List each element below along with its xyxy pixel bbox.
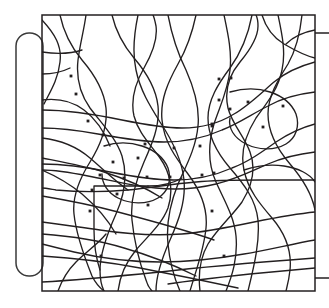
site-dot	[262, 126, 265, 129]
site-dot	[70, 75, 73, 78]
site-dot	[147, 204, 150, 207]
site-dot	[123, 177, 126, 180]
site-dot	[144, 143, 147, 146]
site-dot	[91, 189, 94, 192]
site-dot	[146, 176, 149, 179]
site-dot	[211, 123, 214, 126]
site-dot	[213, 172, 216, 175]
site-dot	[247, 101, 250, 104]
site-dot	[102, 134, 105, 137]
site-dot	[137, 157, 140, 160]
curve-arrangement-diagram	[0, 0, 329, 308]
site-dot	[173, 147, 176, 150]
site-dot	[112, 161, 115, 164]
site-dot	[218, 99, 221, 102]
site-dot	[229, 108, 232, 111]
site-dot	[169, 176, 172, 179]
site-dot	[89, 210, 92, 213]
site-dot	[116, 193, 119, 196]
site-dot	[199, 145, 202, 148]
site-dot	[75, 93, 78, 96]
site-dot	[211, 210, 214, 213]
site-dot	[223, 255, 226, 258]
site-dot	[218, 78, 221, 81]
site-dot	[201, 174, 204, 177]
site-dot	[99, 174, 102, 177]
site-dot	[100, 255, 103, 258]
site-dot	[282, 105, 285, 108]
site-dot	[230, 77, 233, 80]
site-dot	[87, 120, 90, 123]
figure-root	[0, 0, 329, 308]
